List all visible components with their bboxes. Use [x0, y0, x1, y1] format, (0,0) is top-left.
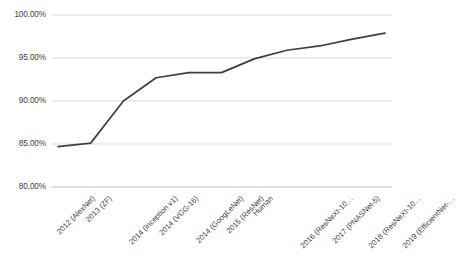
line-series-accuracy — [58, 33, 385, 147]
